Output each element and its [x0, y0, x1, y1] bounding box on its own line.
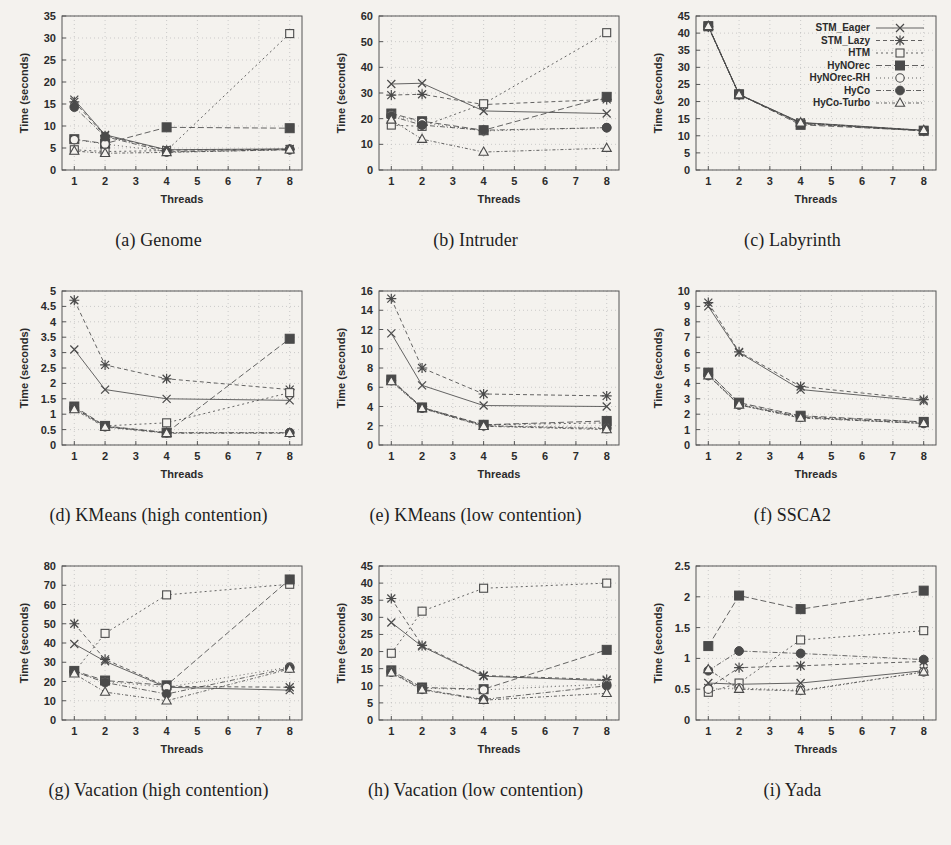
- chart-panel-f: 01234567891012345678ThreadsTime (seconds…: [634, 275, 951, 550]
- svg-text:9: 9: [684, 300, 690, 312]
- chart-panel-i: 00.511.522.512345678ThreadsTime (seconds…: [634, 550, 951, 830]
- svg-text:6: 6: [859, 725, 865, 737]
- svg-text:7: 7: [890, 725, 896, 737]
- svg-text:2: 2: [736, 450, 742, 462]
- subfigure-caption-e: (e) KMeans (low contention): [369, 505, 581, 526]
- svg-text:Threads: Threads: [161, 468, 204, 480]
- svg-text:STM_Eager: STM_Eager: [816, 22, 871, 33]
- svg-text:2: 2: [367, 420, 373, 432]
- svg-text:2: 2: [50, 377, 56, 389]
- svg-text:3: 3: [450, 725, 456, 737]
- svg-text:35: 35: [361, 594, 373, 606]
- svg-text:8: 8: [604, 175, 610, 187]
- svg-text:20: 20: [361, 646, 373, 658]
- svg-text:Threads: Threads: [478, 743, 521, 755]
- svg-text:1.5: 1.5: [675, 622, 690, 634]
- svg-text:16: 16: [361, 285, 373, 297]
- svg-text:3: 3: [450, 175, 456, 187]
- svg-text:3: 3: [133, 450, 139, 462]
- svg-text:6: 6: [225, 450, 231, 462]
- svg-text:60: 60: [44, 599, 56, 611]
- svg-text:7: 7: [256, 175, 262, 187]
- svg-text:4: 4: [481, 725, 488, 737]
- svg-text:0.5: 0.5: [41, 424, 56, 436]
- svg-text:60: 60: [361, 10, 373, 22]
- svg-text:20: 20: [678, 96, 690, 108]
- svg-text:5: 5: [194, 450, 200, 462]
- subfigure-caption-h: (h) Vacation (low contention): [368, 780, 583, 801]
- svg-text:3.5: 3.5: [41, 331, 56, 343]
- subfigure-caption-c: (c) Labyrinth: [744, 230, 841, 251]
- svg-text:2: 2: [419, 725, 425, 737]
- svg-text:4: 4: [481, 450, 488, 462]
- svg-text:5: 5: [828, 725, 834, 737]
- svg-text:45: 45: [678, 10, 690, 22]
- svg-text:Time (seconds): Time (seconds): [335, 327, 347, 408]
- plot-area-h: 05101520253035404512345678ThreadsTime (s…: [317, 550, 634, 768]
- svg-text:0: 0: [50, 439, 56, 451]
- svg-text:4: 4: [798, 450, 805, 462]
- subfigure-caption-a: (a) Genome: [115, 230, 201, 251]
- svg-text:10: 10: [678, 285, 690, 297]
- chart-panel-c: 05101520253035404512345678ThreadsTime (s…: [634, 0, 951, 275]
- svg-text:10: 10: [44, 695, 56, 707]
- svg-text:4: 4: [50, 316, 57, 328]
- svg-text:Time (seconds): Time (seconds): [18, 602, 30, 683]
- svg-text:5: 5: [828, 450, 834, 462]
- svg-text:4: 4: [798, 725, 805, 737]
- svg-text:Time (seconds): Time (seconds): [652, 327, 664, 408]
- svg-text:1: 1: [71, 450, 77, 462]
- svg-text:20: 20: [44, 76, 56, 88]
- svg-text:40: 40: [361, 577, 373, 589]
- plot-area-d: 00.511.522.533.544.5512345678ThreadsTime…: [0, 275, 317, 493]
- svg-text:4: 4: [684, 377, 691, 389]
- svg-text:3: 3: [767, 175, 773, 187]
- plot-area-a: 0510152025303512345678ThreadsTime (secon…: [0, 0, 317, 218]
- svg-text:30: 30: [44, 656, 56, 668]
- svg-text:10: 10: [678, 130, 690, 142]
- svg-text:Threads: Threads: [161, 193, 204, 205]
- svg-text:35: 35: [44, 10, 56, 22]
- benchmark-figure-grid: 0510152025303512345678ThreadsTime (secon…: [0, 0, 951, 845]
- svg-text:0: 0: [50, 714, 56, 726]
- svg-text:0.5: 0.5: [675, 683, 690, 695]
- svg-text:20: 20: [44, 676, 56, 688]
- svg-text:8: 8: [684, 316, 690, 328]
- svg-text:1: 1: [684, 424, 690, 436]
- svg-text:4.5: 4.5: [41, 300, 56, 312]
- svg-text:Time (seconds): Time (seconds): [335, 602, 347, 683]
- svg-text:Threads: Threads: [478, 468, 521, 480]
- svg-text:4: 4: [367, 401, 374, 413]
- svg-text:7: 7: [573, 450, 579, 462]
- svg-text:3: 3: [767, 725, 773, 737]
- svg-text:8: 8: [921, 725, 927, 737]
- svg-text:Time (seconds): Time (seconds): [18, 327, 30, 408]
- svg-text:0: 0: [367, 714, 373, 726]
- svg-text:Time (seconds): Time (seconds): [652, 52, 664, 133]
- svg-text:5: 5: [511, 725, 517, 737]
- svg-text:12: 12: [361, 324, 373, 336]
- svg-text:15: 15: [44, 98, 56, 110]
- svg-text:0: 0: [684, 714, 690, 726]
- svg-text:5: 5: [50, 285, 56, 297]
- svg-text:1: 1: [705, 725, 711, 737]
- svg-text:0: 0: [50, 164, 56, 176]
- svg-text:HyCo: HyCo: [844, 85, 870, 96]
- svg-text:3: 3: [767, 450, 773, 462]
- svg-text:4: 4: [481, 175, 488, 187]
- svg-text:4: 4: [164, 450, 171, 462]
- svg-text:STM_Lazy: STM_Lazy: [821, 35, 870, 46]
- svg-text:3: 3: [133, 725, 139, 737]
- svg-text:40: 40: [361, 61, 373, 73]
- plot-area-g: 0102030405060708012345678ThreadsTime (se…: [0, 550, 317, 768]
- plot-area-f: 01234567891012345678ThreadsTime (seconds…: [634, 275, 951, 493]
- svg-text:4: 4: [164, 725, 171, 737]
- svg-text:3: 3: [450, 450, 456, 462]
- svg-text:6: 6: [367, 381, 373, 393]
- svg-text:8: 8: [287, 725, 293, 737]
- svg-text:5: 5: [828, 175, 834, 187]
- svg-text:6: 6: [684, 347, 690, 359]
- svg-text:6: 6: [225, 175, 231, 187]
- svg-text:1: 1: [684, 652, 690, 664]
- svg-text:1: 1: [705, 450, 711, 462]
